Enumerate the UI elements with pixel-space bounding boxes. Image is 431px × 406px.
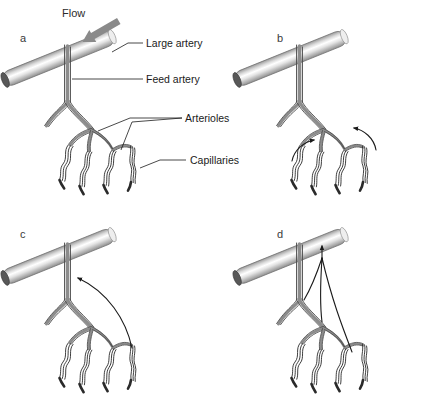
panel-b: b <box>231 28 376 194</box>
leader-capillaries <box>140 160 186 168</box>
callout-capillaries: Capillaries <box>190 154 239 166</box>
converging-line-3-d <box>304 258 322 300</box>
leader-large-artery <box>112 43 143 52</box>
panel-a: a Flow Large artery Feed artery Arteriol… <box>0 7 239 194</box>
vascular-network-figure: a Flow Large artery Feed artery Arteriol… <box>0 0 431 406</box>
leader-arterioles-upper <box>98 118 182 131</box>
panel-d: d <box>231 226 368 392</box>
callout-large-artery: Large artery <box>146 37 203 49</box>
panel-letter-c: c <box>20 228 26 240</box>
flow-label: Flow <box>62 7 85 19</box>
figure-canvas: a Flow Large artery Feed artery Arteriol… <box>0 0 431 406</box>
vascular-tree-a <box>0 28 136 194</box>
panel-letter-a: a <box>20 32 27 44</box>
panel-letter-d: d <box>277 228 283 240</box>
callout-arterioles: Arterioles <box>185 112 229 124</box>
panel-c: c <box>0 226 136 392</box>
converging-line-2-d <box>321 258 323 322</box>
vascular-tree-b <box>231 28 368 194</box>
callout-feed-artery: Feed artery <box>146 73 200 85</box>
vascular-tree-d <box>231 226 368 392</box>
panel-letter-b: b <box>277 32 283 44</box>
